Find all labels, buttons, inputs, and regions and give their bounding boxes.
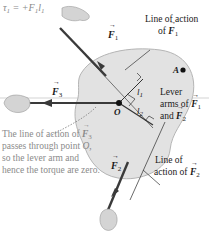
point-o bbox=[116, 100, 122, 106]
lever-f2-sub: 2 bbox=[182, 115, 186, 123]
label-loa-f2-line1: Line of bbox=[155, 156, 183, 166]
label-l2: l2 bbox=[137, 107, 143, 118]
label-f3-sub: 3 bbox=[59, 91, 63, 99]
note-f3-symbol: F bbox=[82, 129, 88, 139]
force-f3-arrowhead bbox=[42, 99, 52, 107]
lever-f2-symbol: F bbox=[176, 111, 182, 121]
label-loa-f2-line2: action of F2 bbox=[154, 168, 200, 179]
label-f3: F3 bbox=[52, 87, 62, 99]
loa-f2-sub: 2 bbox=[196, 171, 200, 179]
torque-equation: τ1 = +F1l1 bbox=[3, 3, 44, 15]
note-line3: so the lever arm and bbox=[2, 154, 79, 164]
lever-f1-symbol: F bbox=[191, 99, 197, 109]
label-l2-sub: 2 bbox=[140, 110, 144, 118]
hand-f2-icon bbox=[100, 209, 117, 230]
vec-f1-sub: 1 bbox=[175, 30, 179, 38]
lever-f1-sub: 1 bbox=[197, 103, 201, 111]
label-lever-arms-and: and bbox=[160, 111, 176, 121]
force-f1-arrow bbox=[60, 28, 106, 76]
label-point-o: O bbox=[114, 108, 121, 117]
label-f3-symbol: F bbox=[52, 86, 59, 97]
vec-f1-symbol: F bbox=[168, 26, 174, 36]
label-loa-f2-action-of: action of bbox=[154, 167, 190, 177]
note-line1-text: The line of action of bbox=[2, 129, 82, 139]
hand-f1-icon bbox=[62, 6, 89, 20]
note-line2-o: O, bbox=[82, 141, 91, 151]
label-f1-sub: 1 bbox=[115, 34, 119, 42]
label-point-a: A bbox=[173, 66, 179, 75]
label-f1-symbol: F bbox=[108, 29, 115, 40]
label-f2: F2 bbox=[111, 161, 121, 173]
label-f1: F1 bbox=[108, 30, 118, 42]
note-line4: hence the torque are zero. bbox=[2, 166, 100, 176]
label-loa-f1-of: of bbox=[158, 26, 168, 36]
note-line1: The line of action of F3 bbox=[2, 130, 92, 141]
label-l1: l1 bbox=[137, 88, 143, 99]
equation-rhs: = +F bbox=[10, 2, 35, 13]
label-lever-arms-of: arms of bbox=[160, 99, 191, 109]
note-f3-sub: 3 bbox=[88, 133, 92, 141]
label-f2-symbol: F bbox=[111, 160, 118, 171]
loa-f2-symbol: F bbox=[190, 167, 196, 177]
equation-l-sub: 1 bbox=[41, 7, 45, 15]
label-lever-arms-line1: Lever bbox=[160, 88, 182, 98]
point-a bbox=[180, 67, 185, 72]
note-line2-text: passes through point bbox=[2, 141, 82, 151]
label-l1-sub: 1 bbox=[140, 91, 144, 99]
label-lever-arms-line3: and F2 bbox=[160, 112, 186, 123]
note-line2: passes through point O, bbox=[2, 142, 92, 152]
label-line-of-action-f1-line2: of F1 bbox=[158, 27, 178, 38]
label-f2-sub: 2 bbox=[118, 165, 122, 173]
hand-f3-icon bbox=[4, 95, 30, 113]
